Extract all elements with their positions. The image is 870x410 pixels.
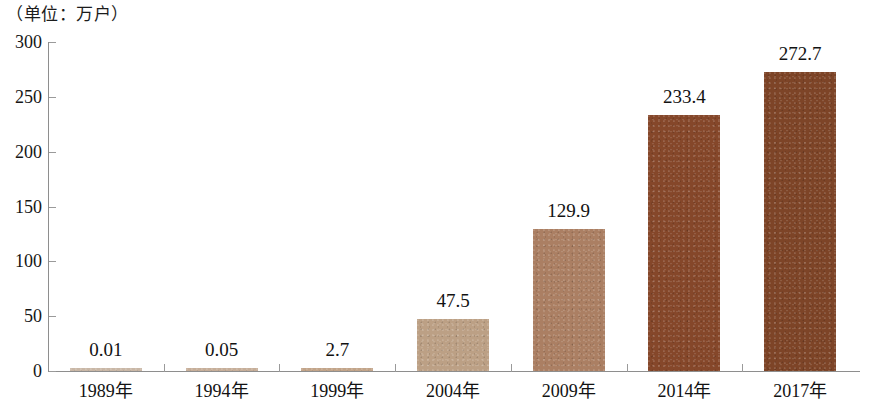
- data-value-label: 272.7: [740, 44, 860, 63]
- x-axis-category-label: 2014年: [624, 380, 744, 402]
- x-axis-line: [48, 371, 860, 372]
- x-axis-category-label: 2004年: [393, 380, 513, 402]
- x-axis-category-label: 1989年: [46, 380, 166, 402]
- bar-chart: （单位：万户） 050100150200250300 0.010.052.747…: [0, 0, 870, 410]
- bar: [764, 72, 836, 371]
- bar: [70, 368, 142, 371]
- bar: [417, 319, 489, 371]
- y-axis-tick-label: 200: [2, 143, 42, 161]
- data-value-label: 0.05: [162, 340, 282, 359]
- data-value-label: 233.4: [624, 87, 744, 106]
- bar: [648, 115, 720, 371]
- y-axis-tick-label: 100: [2, 252, 42, 270]
- x-axis-category-label: 1999年: [277, 380, 397, 402]
- data-value-label: 0.01: [46, 340, 166, 359]
- data-value-label: 2.7: [277, 340, 397, 359]
- x-axis-category-label: 2009年: [509, 380, 629, 402]
- y-axis-tick-label: 300: [2, 33, 42, 51]
- y-axis-tick-label: 150: [2, 198, 42, 216]
- y-axis-tick-label: 50: [2, 307, 42, 325]
- x-axis-category-label: 2017年: [740, 380, 860, 402]
- y-axis-tick-label: 0: [2, 362, 42, 380]
- x-axis-category-label: 1994年: [162, 380, 282, 402]
- bar: [186, 368, 258, 371]
- data-value-label: 129.9: [509, 201, 629, 220]
- data-value-label: 47.5: [393, 291, 513, 310]
- bar: [301, 368, 373, 371]
- bar: [533, 229, 605, 371]
- y-axis-tick-label: 250: [2, 88, 42, 106]
- y-axis-tick-labels: 050100150200250300: [0, 0, 42, 410]
- y-axis-tick-mark: [49, 371, 56, 372]
